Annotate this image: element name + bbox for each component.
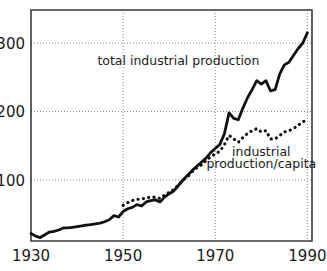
plot-frame bbox=[31, 10, 312, 241]
y-tick-label-100: 100 bbox=[0, 172, 25, 190]
grid-lines bbox=[31, 10, 312, 241]
x-tick-label-1930: 1930 bbox=[12, 247, 50, 265]
x-tick-label-1990: 1990 bbox=[288, 247, 326, 265]
y-tick-label-200: 200 bbox=[0, 103, 25, 121]
x-tick-label-1950: 1950 bbox=[104, 247, 142, 265]
x-axis-tick-labels: 1930195019701990 bbox=[12, 247, 327, 265]
series-annotations: total industrial productionindustrialpro… bbox=[97, 53, 316, 171]
chart-canvas: 100200300 1930195019701990 total industr… bbox=[0, 0, 327, 271]
annotation-percapita-label-line2: production/capita bbox=[206, 156, 316, 171]
annotation-total-label: total industrial production bbox=[97, 53, 259, 68]
x-tick-label-1970: 1970 bbox=[196, 247, 234, 265]
axis-frame bbox=[31, 10, 312, 241]
y-tick-label-300: 300 bbox=[0, 35, 25, 53]
y-axis-tick-labels: 100200300 bbox=[0, 35, 25, 190]
chart-figure: 100200300 1930195019701990 total industr… bbox=[0, 0, 327, 271]
